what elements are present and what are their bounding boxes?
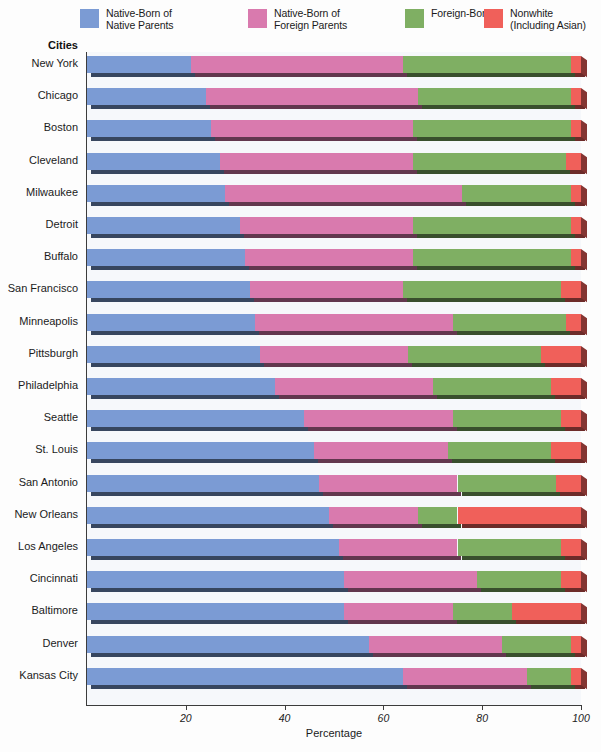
legend-item-3[interactable]: Nonwhite (Including Asian) [484,8,586,32]
bar-segment-series-0[interactable] [87,378,275,395]
bar-segment-series-3[interactable] [571,636,581,653]
bar-segment-series-1[interactable] [369,636,502,653]
bar-segment-series-2[interactable] [408,346,541,363]
bar-segment-series-2[interactable] [413,153,566,170]
bar-segment-series-2[interactable] [413,217,571,234]
bar-segment-series-1[interactable] [339,539,458,556]
bar-row[interactable]: Seattle [87,410,581,432]
bar-segment-series-0[interactable] [87,539,339,556]
bar-segment-series-3[interactable] [561,281,581,298]
bar-segment-series-1[interactable] [344,571,477,588]
bar-segment-series-0[interactable] [87,636,369,653]
bar-segment-series-0[interactable] [87,442,314,459]
bar-row[interactable]: New Orleans [87,507,581,529]
bar-row[interactable]: Chicago [87,88,581,110]
bar-segment-series-3[interactable] [571,56,581,73]
bar-row[interactable]: Kansas City [87,668,581,690]
bar-segment-series-0[interactable] [87,668,403,685]
bar-segment-series-0[interactable] [87,120,211,137]
bar-segment-series-2[interactable] [418,88,571,105]
bar-row[interactable]: Denver [87,636,581,658]
bar-segment-series-1[interactable] [191,56,403,73]
bar-segment-series-3[interactable] [566,153,581,170]
bar-row[interactable]: San Francisco [87,281,581,303]
bar-row[interactable]: Milwaukee [87,185,581,207]
bar-segment-series-2[interactable] [458,539,562,556]
bar-segment-series-0[interactable] [87,346,260,363]
bar-segment-series-2[interactable] [462,185,571,202]
bar-segment-series-3[interactable] [551,378,581,395]
bar-segment-series-2[interactable] [433,378,552,395]
bar-segment-series-2[interactable] [403,56,571,73]
bar-segment-series-3[interactable] [571,120,581,137]
bar-row[interactable]: Minneapolis [87,314,581,336]
bar-segment-series-1[interactable] [225,185,462,202]
legend-item-2[interactable]: Foreign-Born [405,8,491,28]
bar-segment-series-0[interactable] [87,281,250,298]
bar-row[interactable]: Buffalo [87,249,581,271]
bar-segment-series-1[interactable] [220,153,413,170]
bar-segment-series-1[interactable] [255,314,453,331]
bar-segment-series-3[interactable] [571,217,581,234]
bar-segment-series-1[interactable] [319,475,457,492]
bar-segment-series-2[interactable] [458,475,557,492]
bar-segment-series-0[interactable] [87,314,255,331]
bar-row[interactable]: Los Angeles [87,539,581,561]
bar-segment-series-2[interactable] [413,249,571,266]
bar-segment-series-3[interactable] [551,442,581,459]
bar-segment-series-2[interactable] [453,314,567,331]
bar-segment-series-3[interactable] [458,507,582,524]
bar-row[interactable]: New York [87,56,581,78]
bar-segment-series-0[interactable] [87,475,319,492]
bar-segment-series-0[interactable] [87,603,344,620]
bar-segment-series-1[interactable] [260,346,408,363]
bar-row[interactable]: Detroit [87,217,581,239]
bar-segment-series-2[interactable] [477,571,561,588]
bar-row[interactable]: Boston [87,120,581,142]
bar-segment-series-1[interactable] [403,668,527,685]
bar-segment-series-3[interactable] [556,475,581,492]
bar-row[interactable]: Philadelphia [87,378,581,400]
bar-segment-series-3[interactable] [571,185,581,202]
bar-segment-series-2[interactable] [418,507,458,524]
bar-segment-series-2[interactable] [527,668,571,685]
bar-segment-series-3[interactable] [541,346,581,363]
bar-segment-series-0[interactable] [87,56,191,73]
bar-segment-series-1[interactable] [245,249,413,266]
bar-segment-series-1[interactable] [275,378,433,395]
bar-segment-series-2[interactable] [413,120,571,137]
bar-segment-series-3[interactable] [561,539,581,556]
bar-segment-series-0[interactable] [87,88,206,105]
legend-item-0[interactable]: Native-Born of Native Parents [80,8,173,32]
bar-row[interactable]: San Antonio [87,475,581,497]
bar-segment-series-1[interactable] [240,217,413,234]
bar-segment-series-3[interactable] [561,571,581,588]
bar-segment-series-1[interactable] [304,410,452,427]
bar-segment-series-3[interactable] [571,249,581,266]
bar-segment-series-1[interactable] [329,507,418,524]
bar-row[interactable]: St. Louis [87,442,581,464]
legend-item-1[interactable]: Native-Born of Foreign Parents [248,8,347,32]
bar-segment-series-2[interactable] [448,442,552,459]
bar-segment-series-3[interactable] [561,410,581,427]
bar-segment-series-3[interactable] [571,668,581,685]
bar-segment-series-1[interactable] [344,603,453,620]
bar-segment-series-0[interactable] [87,249,245,266]
bar-segment-series-0[interactable] [87,410,304,427]
bar-row[interactable]: Cincinnati [87,571,581,593]
bar-segment-series-0[interactable] [87,507,329,524]
bar-segment-series-0[interactable] [87,217,240,234]
bar-segment-series-2[interactable] [403,281,561,298]
bar-segment-series-2[interactable] [453,603,512,620]
bar-row[interactable]: Baltimore [87,603,581,625]
bar-segment-series-1[interactable] [250,281,403,298]
bar-segment-series-0[interactable] [87,185,225,202]
bar-segment-series-1[interactable] [211,120,414,137]
bar-segment-series-1[interactable] [206,88,418,105]
bar-segment-series-0[interactable] [87,153,220,170]
bar-row[interactable]: Pittsburgh [87,346,581,368]
bar-segment-series-3[interactable] [566,314,581,331]
bar-segment-series-3[interactable] [512,603,581,620]
bar-segment-series-3[interactable] [571,88,581,105]
bar-segment-series-2[interactable] [502,636,571,653]
